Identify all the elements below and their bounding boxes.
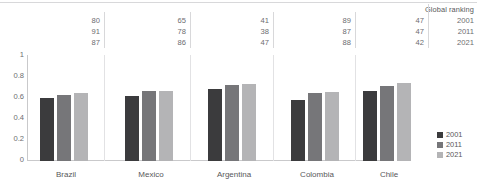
bar-set-brazil xyxy=(40,70,88,161)
bar-chart-plot: 1 0.8 0.6 0.4 0.2 0 Brazil Mexico xyxy=(0,48,477,183)
bar-brazil-2011[interactable] xyxy=(57,95,71,161)
bar-colombia-2001[interactable] xyxy=(291,100,305,161)
legend-label-2021: 2021 xyxy=(446,150,462,160)
rank-value-argentina-2001: 41 xyxy=(229,15,269,26)
rank-value-mexico-2011: 78 xyxy=(146,26,186,37)
rank-value-colombia-2011: 87 xyxy=(311,26,351,37)
table-row: 87 86 47 88 42 2021 xyxy=(0,37,477,48)
legend-swatch-icon xyxy=(437,132,443,138)
legend-item-2001[interactable]: 2001 xyxy=(437,130,477,140)
bar-group-colombia: Colombia xyxy=(291,70,343,161)
y-tick-0.8: 0.8 xyxy=(0,72,24,80)
bar-colombia-2021[interactable] xyxy=(325,92,339,161)
group-divider xyxy=(273,55,274,161)
bar-mexico-2021[interactable] xyxy=(159,91,173,161)
rank-value-brazil-2021: 87 xyxy=(60,37,100,48)
y-tick-0: 0 xyxy=(0,156,24,164)
x-label-brazil: Brazil xyxy=(56,170,76,179)
rank-value-mexico-2001: 65 xyxy=(146,15,186,26)
x-label-mexico: Mexico xyxy=(138,170,163,179)
legend-label-2001: 2001 xyxy=(446,130,462,140)
bar-argentina-2001[interactable] xyxy=(208,89,222,161)
table-top-rule xyxy=(0,2,477,3)
chart-legend: 2001 2011 2021 xyxy=(437,130,477,160)
bar-group-chile: Chile xyxy=(363,70,415,161)
bar-group-argentina: Argentina xyxy=(208,70,260,161)
x-label-chile: Chile xyxy=(380,170,398,179)
bar-chile-2001[interactable] xyxy=(363,91,377,161)
legend-swatch-icon xyxy=(437,142,443,148)
bar-group-mexico: Mexico xyxy=(125,70,177,161)
rank-row-year-2021: 2021 xyxy=(457,37,474,48)
bar-argentina-2011[interactable] xyxy=(225,85,239,161)
legend-item-2021[interactable]: 2021 xyxy=(437,150,477,160)
rank-value-brazil-2001: 80 xyxy=(60,15,100,26)
y-tick-0.6: 0.6 xyxy=(0,93,24,101)
rank-value-brazil-2011: 91 xyxy=(60,26,100,37)
bar-brazil-2021[interactable] xyxy=(74,93,88,161)
bar-chile-2021[interactable] xyxy=(397,83,411,161)
rank-row-year-2001: 2001 xyxy=(457,15,474,26)
x-label-colombia: Colombia xyxy=(300,170,334,179)
bar-mexico-2001[interactable] xyxy=(125,96,139,162)
bar-chile-2011[interactable] xyxy=(380,86,394,162)
x-label-argentina: Argentina xyxy=(217,170,251,179)
legend-label-2011: 2011 xyxy=(446,140,462,150)
group-divider xyxy=(190,55,191,161)
rank-value-colombia-2021: 88 xyxy=(311,37,351,48)
bar-set-chile xyxy=(363,70,411,161)
rank-value-colombia-2001: 89 xyxy=(311,15,351,26)
rank-value-chile-2001: 47 xyxy=(384,15,424,26)
bar-group-brazil: Brazil xyxy=(40,70,92,161)
y-tick-0.2: 0.2 xyxy=(0,135,24,143)
bar-set-colombia xyxy=(291,70,339,161)
legend-item-2011[interactable]: 2011 xyxy=(437,140,477,150)
table-row: 91 78 38 87 47 2011 xyxy=(0,26,477,37)
legend-swatch-icon xyxy=(437,152,443,158)
chart-page: Global ranking 80 65 41 89 47 2001 91 78… xyxy=(0,0,477,183)
table-row: 80 65 41 89 47 2001 xyxy=(0,15,477,26)
rank-value-chile-2021: 42 xyxy=(384,37,424,48)
bar-set-mexico xyxy=(125,70,173,161)
group-divider xyxy=(104,55,105,161)
bar-brazil-2001[interactable] xyxy=(40,98,54,161)
global-ranking-table: Global ranking 80 65 41 89 47 2001 91 78… xyxy=(0,0,477,48)
rank-value-mexico-2021: 86 xyxy=(146,37,186,48)
bar-colombia-2011[interactable] xyxy=(308,93,322,161)
bar-set-argentina xyxy=(208,70,256,161)
rank-value-argentina-2021: 47 xyxy=(229,37,269,48)
y-tick-0.4: 0.4 xyxy=(0,114,24,122)
bar-mexico-2011[interactable] xyxy=(142,91,156,161)
rank-row-year-2011: 2011 xyxy=(458,26,474,37)
global-ranking-header: Global ranking xyxy=(425,5,474,14)
y-axis-line xyxy=(27,55,28,161)
rank-value-chile-2011: 47 xyxy=(384,26,424,37)
rank-value-argentina-2011: 38 xyxy=(229,26,269,37)
group-divider xyxy=(355,55,356,161)
bar-argentina-2021[interactable] xyxy=(242,84,256,161)
y-tick-1: 1 xyxy=(0,51,24,59)
